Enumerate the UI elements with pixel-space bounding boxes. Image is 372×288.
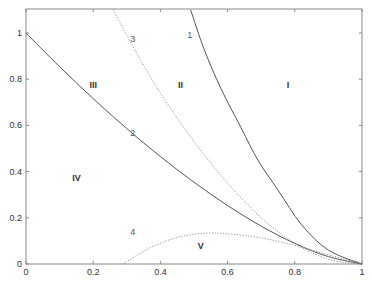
y-tick-label: 1 bbox=[17, 28, 22, 38]
x-tick-label: 0 bbox=[23, 267, 28, 277]
x-tick-label: 0.8 bbox=[289, 267, 302, 277]
y-tick-label: 0.4 bbox=[9, 167, 22, 177]
region-label-iv: IV bbox=[72, 173, 81, 183]
x-tick-label: 0.4 bbox=[154, 267, 167, 277]
curve-label-2: 2 bbox=[130, 128, 135, 138]
phase-diagram: 00.20.40.60.8100.20.40.60.81 1234 IIIIII… bbox=[0, 0, 372, 288]
region-label-ii: II bbox=[178, 80, 183, 90]
figure-caption bbox=[0, 281, 372, 288]
y-tick-label: 0.8 bbox=[9, 74, 22, 84]
y-tick-label: 0.2 bbox=[9, 213, 22, 223]
x-tick-label: 1 bbox=[359, 267, 364, 277]
curve-label-3: 3 bbox=[130, 34, 135, 44]
region-labels: IIIIIIIVV bbox=[72, 80, 289, 251]
y-tick-label: 0 bbox=[17, 259, 22, 269]
curve-2 bbox=[26, 33, 362, 264]
axis-ticks: 00.20.40.60.8100.20.40.60.81 bbox=[9, 9, 364, 277]
curves bbox=[26, 10, 362, 264]
curve-3 bbox=[113, 10, 362, 264]
region-label-iii: III bbox=[89, 80, 97, 90]
region-label-v: V bbox=[198, 241, 204, 251]
x-tick-label: 0.2 bbox=[87, 267, 100, 277]
plot-frame bbox=[26, 9, 362, 264]
y-tick-label: 0.6 bbox=[9, 120, 22, 130]
curve-label-4: 4 bbox=[130, 227, 135, 237]
curve-label-1: 1 bbox=[187, 30, 192, 40]
curve-labels: 1234 bbox=[130, 30, 192, 238]
curve-1 bbox=[191, 10, 362, 264]
region-label-i: I bbox=[287, 80, 290, 90]
x-tick-label: 0.6 bbox=[221, 267, 234, 277]
